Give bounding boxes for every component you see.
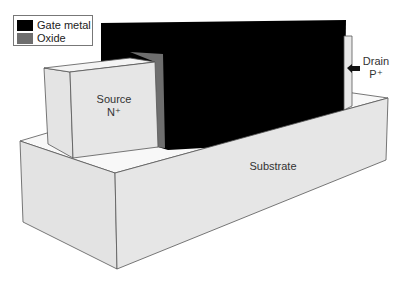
source-fin-side-face	[44, 68, 73, 158]
legend-item-oxide: Oxide	[17, 32, 66, 44]
substrate-label: Substrate	[238, 160, 308, 173]
drain-fin	[344, 36, 352, 110]
legend-label-oxide: Oxide	[37, 32, 66, 44]
source-name: Source	[88, 93, 140, 106]
legend-label-gate-metal: Gate metal	[37, 19, 91, 31]
source-label: Source N⁺	[88, 93, 140, 119]
legend-item-gate-metal: Gate metal	[17, 19, 91, 31]
legend: Gate metal Oxide	[13, 15, 93, 46]
oxide-swatch-icon	[17, 33, 33, 44]
drain-doping: P⁺	[358, 68, 394, 81]
gate-metal-swatch-icon	[17, 20, 33, 31]
drain-label: Drain P⁺	[358, 55, 394, 81]
source-doping: N⁺	[88, 106, 140, 119]
drain-name: Drain	[358, 55, 394, 68]
